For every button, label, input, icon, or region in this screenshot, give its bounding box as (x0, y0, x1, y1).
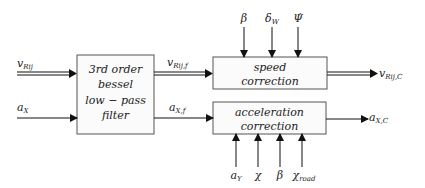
signal-v-out: vRij,C (379, 67, 403, 81)
accel-label-2: correction (241, 120, 299, 133)
accel-label-1: acceleration (235, 106, 304, 119)
speed-label-1: speed (254, 61, 287, 74)
signal-a-out: aX,C (369, 111, 389, 125)
arrow-head (69, 69, 77, 78)
signal-v-f: vRij,f (167, 56, 189, 70)
signal-v-in: vRij (17, 57, 34, 71)
accel-input-chi: χ (254, 169, 263, 182)
speed-input-psi-dot: Ψ̇ (293, 12, 303, 25)
accel-input-beta: β (276, 169, 283, 182)
speed-input-delta-w: δW (265, 12, 280, 26)
accel-input-chi-road: χroad (292, 169, 316, 183)
accel-input-a-y: aY (230, 169, 243, 183)
speed-input-beta: β (240, 12, 247, 25)
signal-a-f: aX,f (169, 101, 187, 115)
filter-label-1: 3rd order (89, 63, 143, 76)
speed-label-2: correction (241, 75, 299, 88)
signal-a-in: aX (17, 101, 30, 115)
filter-label-4: filter (101, 109, 130, 122)
filter-label-3: low − pass (85, 94, 146, 107)
filter-label-2: bessel (98, 78, 133, 91)
signal-flow-diagram: 3rd order bessel low − pass filter speed… (0, 0, 425, 188)
